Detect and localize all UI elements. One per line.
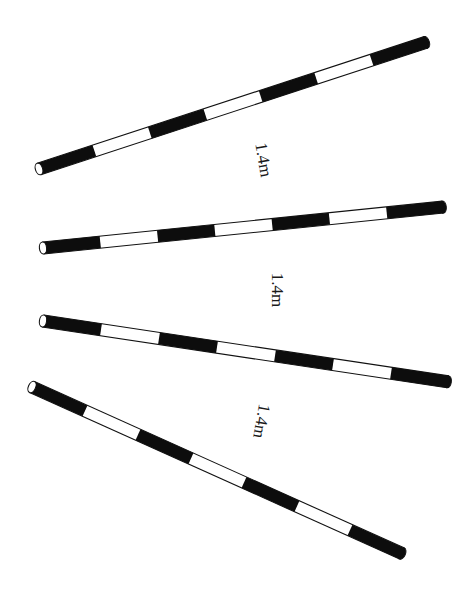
pole-segment-dark bbox=[348, 525, 406, 560]
spacing-labels-group: 1.4m 1.4m 1.4m bbox=[249, 141, 287, 440]
pole-3 bbox=[39, 315, 453, 389]
pole-4 bbox=[26, 380, 407, 560]
spacing-label-3: 1.4m bbox=[249, 403, 274, 440]
pole-segment-dark bbox=[390, 367, 450, 388]
pole-segment-light bbox=[100, 324, 160, 345]
pole-edge-top bbox=[37, 37, 424, 164]
pole-edge-bottom bbox=[42, 327, 447, 388]
pole-2 bbox=[39, 201, 447, 255]
pole-edge-bottom bbox=[44, 213, 444, 254]
pole-segment-dark bbox=[274, 350, 334, 371]
pole-segment-light bbox=[295, 501, 353, 536]
pole-spacing-diagram: 1.4m 1.4m 1.4m bbox=[0, 0, 473, 591]
pole-segment-dark bbox=[136, 429, 194, 464]
pole-edge-bottom bbox=[30, 392, 400, 559]
pole-segment-light bbox=[332, 359, 392, 380]
pole-edge-top bbox=[34, 382, 404, 549]
pole-segment-light bbox=[216, 341, 276, 362]
pole-edge-bottom bbox=[41, 48, 428, 175]
spacing-label-1: 1.4m bbox=[251, 141, 276, 178]
pole-segment-dark bbox=[30, 382, 88, 417]
pole-segment-light bbox=[189, 453, 247, 488]
pole-edge-top bbox=[42, 201, 442, 242]
pole-segment-light bbox=[83, 405, 141, 440]
pole-edge-top bbox=[44, 315, 449, 376]
pole-segment-dark bbox=[42, 315, 102, 336]
spacing-label-2: 1.4m bbox=[268, 273, 287, 307]
pole-segment-dark bbox=[158, 332, 218, 353]
pole-1 bbox=[34, 36, 431, 176]
poles-group bbox=[26, 36, 452, 561]
pole-segment-dark bbox=[242, 477, 300, 512]
